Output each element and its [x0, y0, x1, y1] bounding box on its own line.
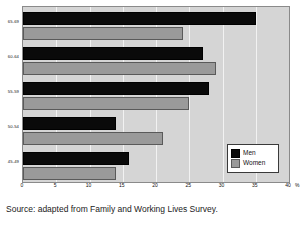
bar-group	[23, 10, 289, 45]
bar-group	[23, 45, 289, 80]
bar-men	[23, 117, 116, 130]
y-axis: 65-69 60-64 55-59 50-54 45-49	[0, 6, 21, 181]
x-tick-label: 15	[119, 183, 125, 188]
x-tick-label: 30	[219, 183, 225, 188]
bar-men	[23, 82, 209, 95]
x-tick-label: 0	[21, 183, 24, 188]
y-tick-label: 45-49	[8, 160, 19, 164]
x-tick-label: 40	[285, 183, 291, 188]
x-axis: 0 5 10 15 20 25 30 35 40 %	[22, 183, 288, 195]
source-caption: Source: adapted from Family and Working …	[6, 205, 218, 214]
figure: 65-69 60-64 55-59 50-54 45-49	[0, 0, 300, 225]
legend-swatch-men-icon	[231, 149, 240, 158]
legend-label-women: Women	[243, 160, 265, 167]
y-tick-label: 55-59	[8, 90, 19, 94]
legend-label-men: Men	[243, 150, 256, 157]
bar-women	[23, 132, 163, 145]
x-axis-unit-label: %	[295, 183, 299, 188]
legend: Men Women	[227, 144, 279, 173]
x-tick-label: 10	[86, 183, 92, 188]
y-tick-label: 50-54	[8, 125, 19, 129]
bar-women	[23, 167, 116, 180]
bar-men	[23, 12, 256, 25]
legend-swatch-women-icon	[231, 159, 240, 168]
plot-area: Men Women	[22, 6, 290, 183]
y-tick-label: 65-69	[8, 20, 19, 24]
x-tick-label: 35	[252, 183, 258, 188]
x-tick-label: 5	[54, 183, 57, 188]
bar-men	[23, 47, 203, 60]
y-tick-label: 60-64	[8, 55, 19, 59]
legend-entry-men: Men	[231, 149, 275, 158]
bar-women	[23, 62, 216, 75]
x-tick-label: 25	[185, 183, 191, 188]
x-tick-label: 20	[152, 183, 158, 188]
bar-group	[23, 80, 289, 115]
bar-women	[23, 27, 183, 40]
bar-women	[23, 97, 189, 110]
bar-men	[23, 152, 129, 165]
legend-entry-women: Women	[231, 159, 275, 168]
